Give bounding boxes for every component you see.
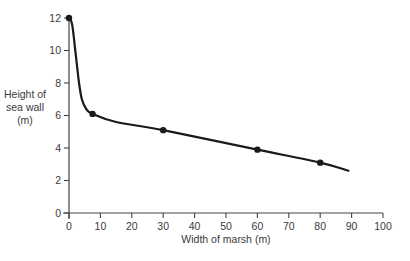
y-tick-label: 12 (49, 12, 61, 24)
x-tick-label: 100 (374, 220, 392, 232)
x-tick-label: 50 (220, 220, 232, 232)
y-tick-label: 4 (55, 142, 61, 154)
x-tick-label: 10 (95, 220, 107, 232)
line-chart: 024681012 0102030405060708090100 Height … (0, 0, 410, 261)
x-tick-label: 60 (252, 220, 264, 232)
data-point-marker (66, 15, 72, 21)
y-axis-title-line-2: sea wall (6, 101, 44, 113)
x-tick-label: 40 (189, 220, 201, 232)
y-axis-title-line-1: Height of (4, 88, 46, 100)
y-tick-label: 6 (55, 109, 61, 121)
data-point-marker (160, 127, 166, 133)
x-axis: 0102030405060708090100 (63, 213, 392, 232)
y-tick-label: 10 (49, 44, 61, 56)
x-tick-label: 80 (314, 220, 326, 232)
series-line (69, 18, 348, 171)
y-tick-label: 8 (55, 77, 61, 89)
data-point-marker (317, 159, 323, 165)
y-axis-title: Height of sea wall (m) (4, 88, 46, 126)
x-tick-label: 30 (157, 220, 169, 232)
x-axis-title: Width of marsh (m) (181, 233, 270, 245)
y-axis: 024681012 (49, 12, 69, 219)
x-tick-label: 0 (66, 220, 72, 232)
x-tick-label: 20 (126, 220, 138, 232)
y-tick-label: 2 (55, 174, 61, 186)
x-tick-label: 90 (346, 220, 358, 232)
y-axis-title-line-3: (m) (17, 114, 33, 126)
data-point-marker (254, 146, 260, 152)
chart: 024681012 0102030405060708090100 Height … (0, 0, 410, 261)
y-tick-label: 0 (55, 207, 61, 219)
data-point-marker (89, 111, 95, 117)
x-tick-label: 70 (283, 220, 295, 232)
data-series (66, 15, 349, 171)
